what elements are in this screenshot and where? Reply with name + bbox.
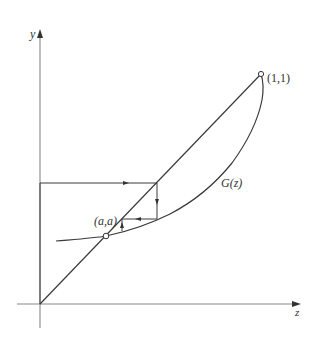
y-axis-arrow-icon <box>37 29 43 38</box>
g-curve <box>56 74 263 241</box>
arrow-down-icon <box>155 199 159 205</box>
fixed-point-bottom-marker <box>103 233 109 239</box>
arrow-up-icon <box>120 222 124 228</box>
arrow-right-icon <box>123 181 129 185</box>
fixed-point-top-marker <box>258 71 263 76</box>
x-axis-label: z <box>294 306 300 318</box>
curve-label: G(z) <box>221 176 242 190</box>
arrow-left-icon <box>135 217 141 221</box>
cobweb-diagram: y z (1,1) (a,a) G(z) <box>0 0 317 338</box>
fixed-point-top-label: (1,1) <box>267 71 290 85</box>
fixed-point-bottom-label: (a,a) <box>94 214 117 228</box>
y-axis-label: y <box>29 27 36 41</box>
